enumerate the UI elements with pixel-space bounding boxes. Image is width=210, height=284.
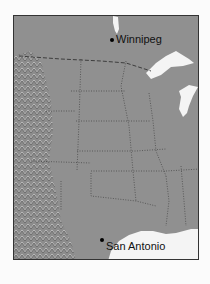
city-label-san-antonio: San Antonio — [106, 241, 165, 252]
map-frame: Winnipeg San Antonio — [13, 15, 199, 260]
map-terrain — [14, 16, 199, 260]
city-label-winnipeg: Winnipeg — [116, 34, 162, 45]
city-marker-san-antonio — [100, 238, 104, 242]
city-marker-winnipeg — [110, 38, 114, 42]
